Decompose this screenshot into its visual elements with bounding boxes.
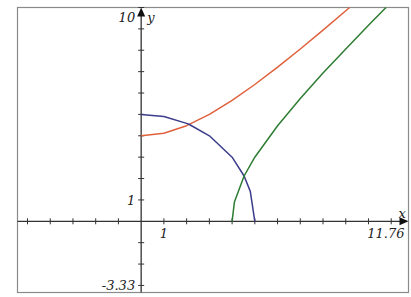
y-axis-label: y bbox=[146, 10, 155, 25]
x-unit-tick-label: 1 bbox=[160, 226, 168, 241]
ymax-tick-label: 10 bbox=[119, 10, 136, 25]
plot-frame bbox=[18, 8, 409, 293]
xmax-tick-label: 11.76 bbox=[367, 226, 404, 241]
x-axis-label: x bbox=[399, 206, 407, 221]
ymin-tick-label: -3.33 bbox=[102, 278, 135, 293]
function-plot: y x 10 -3.33 11.76 1 1 bbox=[0, 0, 411, 297]
y-unit-tick-label: 1 bbox=[127, 193, 135, 208]
